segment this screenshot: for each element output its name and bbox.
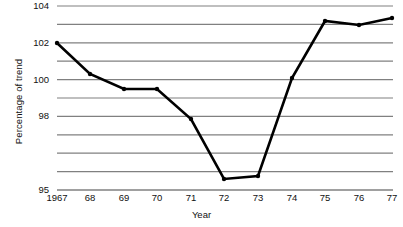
data-point-marker — [222, 177, 226, 181]
x-axis-tick-label: 70 — [152, 193, 163, 203]
data-point-marker — [323, 19, 327, 23]
x-axis-tick-label: 1967 — [46, 193, 67, 203]
data-point-marker — [155, 87, 159, 91]
y-axis-tick-label: 102 — [0, 38, 49, 48]
y-axis-tick-label: 100 — [0, 75, 49, 85]
data-point-marker — [390, 16, 394, 20]
x-axis-tick-label: 77 — [387, 193, 398, 203]
y-axis-tick-label: 98 — [0, 111, 49, 121]
x-axis-title: Year — [0, 209, 403, 220]
gridlines — [57, 6, 393, 190]
data-point-marker — [256, 174, 260, 178]
x-axis-tick-label: 68 — [85, 193, 96, 203]
x-axis-tick-label: 76 — [354, 193, 365, 203]
data-point-marker — [88, 72, 92, 76]
x-axis-tick-label: 71 — [186, 193, 197, 203]
y-axis-tick-label: 104 — [0, 1, 49, 11]
data-point-marker — [189, 117, 193, 121]
y-axis-tick-label: 95 — [0, 185, 49, 195]
x-axis-tick-label: 72 — [219, 193, 230, 203]
line-chart: Percentage of trend 1041021009895 196768… — [0, 0, 403, 227]
data-point-marker — [122, 87, 126, 91]
x-axis-tick-label: 69 — [119, 193, 130, 203]
data-point-marker — [290, 76, 294, 80]
x-axis-tick-label: 74 — [287, 193, 298, 203]
data-point-marker — [55, 41, 59, 45]
x-axis-tick-label: 75 — [320, 193, 331, 203]
data-point-marker — [357, 23, 361, 27]
x-axis-tick-label: 73 — [253, 193, 264, 203]
